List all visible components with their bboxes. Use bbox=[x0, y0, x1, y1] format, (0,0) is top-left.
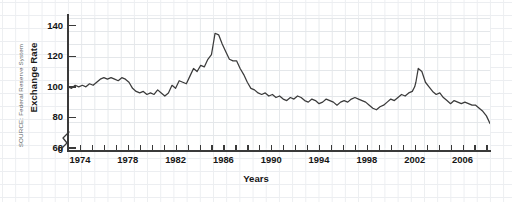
x-tick bbox=[271, 145, 272, 151]
y-tick-label: 80 bbox=[37, 112, 63, 122]
x-axis-title: Years bbox=[0, 173, 512, 184]
x-tick bbox=[176, 145, 177, 151]
x-tick-label: 1982 bbox=[156, 155, 196, 164]
x-tick bbox=[92, 145, 93, 151]
x-tick bbox=[451, 145, 452, 151]
x-tick bbox=[343, 145, 344, 151]
x-tick bbox=[331, 145, 332, 151]
x-tick bbox=[247, 145, 248, 151]
x-tick-label: 2006 bbox=[443, 155, 483, 164]
x-tick bbox=[439, 145, 440, 151]
x-tick-label: 1974 bbox=[60, 155, 100, 164]
y-axis-break-icon bbox=[60, 128, 78, 150]
x-tick bbox=[403, 145, 404, 151]
x-tick-label: 1998 bbox=[347, 155, 387, 164]
x-tick bbox=[367, 145, 368, 151]
x-tick bbox=[80, 145, 81, 151]
y-tick bbox=[69, 25, 76, 26]
x-tick bbox=[188, 145, 189, 151]
x-tick bbox=[152, 145, 153, 151]
y-tick bbox=[69, 117, 76, 118]
x-tick bbox=[116, 145, 117, 151]
source-credit: SOURCE: Federal Reserve System bbox=[17, 31, 24, 161]
x-tick bbox=[140, 145, 141, 151]
x-tick bbox=[211, 145, 212, 151]
y-tick bbox=[69, 86, 76, 87]
y-tick bbox=[69, 56, 76, 57]
x-tick bbox=[223, 145, 224, 151]
y-tick-label: 100 bbox=[37, 82, 63, 92]
x-tick bbox=[164, 145, 165, 151]
chart-screenshot: SOURCE: Federal Reserve System Exchange … bbox=[0, 0, 512, 202]
x-tick-label: 1986 bbox=[203, 155, 243, 164]
x-tick bbox=[307, 145, 308, 151]
x-tick bbox=[200, 145, 201, 151]
x-tick-label: 1978 bbox=[108, 155, 148, 164]
x-tick bbox=[355, 145, 356, 151]
y-tick-label: 120 bbox=[37, 51, 63, 61]
x-tick bbox=[427, 145, 428, 151]
x-tick bbox=[379, 145, 380, 151]
x-tick-label: 1994 bbox=[299, 155, 339, 164]
series-line-exchange-rate bbox=[68, 18, 490, 148]
x-tick bbox=[128, 145, 129, 151]
x-tick bbox=[295, 145, 296, 151]
y-tick-label: 140 bbox=[37, 21, 63, 31]
x-tick bbox=[319, 145, 320, 151]
x-tick bbox=[486, 145, 487, 151]
plot-area bbox=[68, 18, 490, 148]
x-tick bbox=[283, 145, 284, 151]
x-tick bbox=[474, 145, 475, 151]
x-tick-label: 2002 bbox=[395, 155, 435, 164]
x-tick-label: 1990 bbox=[251, 155, 291, 164]
x-tick bbox=[391, 145, 392, 151]
x-tick bbox=[259, 145, 260, 151]
x-tick bbox=[415, 145, 416, 151]
x-tick bbox=[463, 145, 464, 151]
x-tick bbox=[104, 145, 105, 151]
x-tick bbox=[235, 145, 236, 151]
